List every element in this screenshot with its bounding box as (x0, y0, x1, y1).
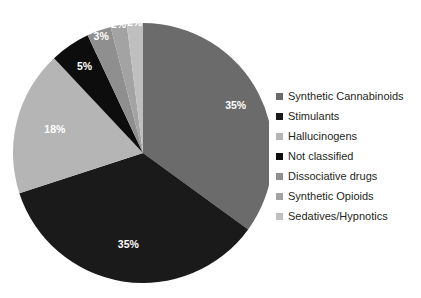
pie-slice-label: 18% (44, 123, 66, 135)
pie-slice-label: 2% (127, 19, 143, 28)
legend-item-synthetic-cannabinoids[interactable]: Synthetic Cannabinoids (276, 86, 421, 106)
pie-slice-group (13, 23, 269, 283)
legend-item-label: Sedatives/Hypnotics (288, 210, 388, 222)
pie-slice-label: 35% (225, 99, 247, 111)
legend-item-label: Not classified (288, 150, 353, 162)
legend-swatch-icon (276, 193, 283, 200)
legend-item-label: Synthetic Cannabinoids (288, 90, 404, 102)
legend-swatch-icon (276, 213, 283, 220)
pie-slice-label: 2% (111, 19, 127, 30)
legend-item-label: Hallucinogens (288, 130, 357, 142)
legend-item-synthetic-opioids[interactable]: Synthetic Opioids (276, 186, 421, 206)
legend-item-sedatives-hypnotics[interactable]: Sedatives/Hypnotics (276, 206, 421, 226)
pie-slice-label: 5% (77, 60, 93, 72)
legend-swatch-icon (276, 153, 283, 160)
legend-item-label: Dissociative drugs (288, 170, 377, 182)
pie-chart-plot-area: 35%35%18%5%3%2%2% (13, 19, 269, 289)
pie-svg: 35%35%18%5%3%2%2% (13, 19, 269, 289)
legend-item-label: Synthetic Opioids (288, 190, 374, 202)
legend-item-hallucinogens[interactable]: Hallucinogens (276, 126, 421, 146)
legend-swatch-icon (276, 93, 283, 100)
legend-item-label: Stimulants (288, 110, 339, 122)
pie-slice-label: 3% (94, 30, 110, 42)
legend-swatch-icon (276, 113, 283, 120)
legend-swatch-icon (276, 133, 283, 140)
legend-item-stimulants[interactable]: Stimulants (276, 106, 421, 126)
pie-chart-figure: 35%35%18%5%3%2%2% Synthetic Cannabinoids… (0, 0, 421, 298)
pie-slice-label: 35% (118, 238, 140, 250)
legend-item-not-classified[interactable]: Not classified (276, 146, 421, 166)
chart-legend: Synthetic CannabinoidsStimulantsHallucin… (276, 86, 421, 226)
legend-swatch-icon (276, 173, 283, 180)
legend-item-dissociative-drugs[interactable]: Dissociative drugs (276, 166, 421, 186)
